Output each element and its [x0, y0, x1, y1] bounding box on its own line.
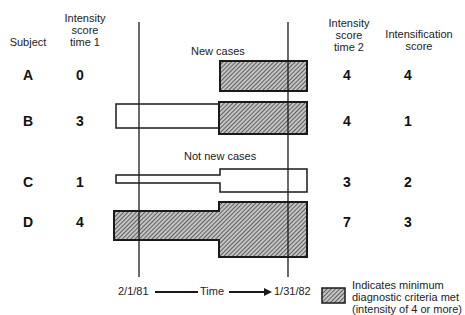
legend-line: diagnostic criteria met: [352, 291, 462, 303]
legend-line: (intensity of 4 or more): [352, 303, 462, 315]
legend-text: Indicates minimum diagnostic criteria me…: [352, 279, 462, 315]
subject-b-bar-time1: [116, 104, 220, 128]
subject-c-bar: [116, 169, 307, 192]
arrowhead-icon: [264, 288, 272, 296]
subject-b-bar-time2: [219, 102, 307, 134]
legend-swatch: [322, 288, 345, 303]
axis-time-label: Time: [200, 285, 224, 297]
subject-a-bar-time2: [220, 61, 307, 91]
axis-end-date: 1/31/82: [274, 285, 311, 297]
legend-line: Indicates minimum: [352, 279, 462, 291]
subject-d-bar: [114, 202, 307, 257]
axis-start-date: 2/1/81: [118, 285, 149, 297]
